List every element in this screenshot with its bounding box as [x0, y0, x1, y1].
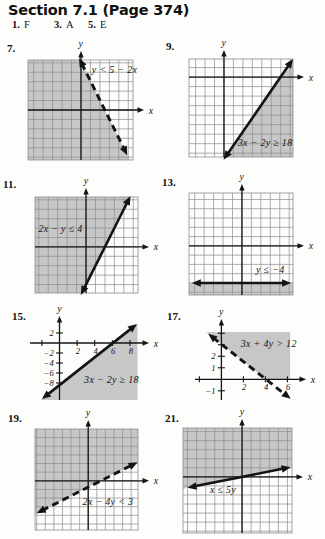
answer-number: 3.: [54, 19, 62, 30]
y-axis-label: y: [218, 306, 224, 317]
answer-key-page: Section 7.1 (Page 374) 1.F 3.A 5.E 7. xy…: [0, 0, 325, 539]
arrowhead: [239, 419, 244, 426]
tick-label: 6: [111, 346, 116, 356]
arrowhead: [143, 340, 150, 345]
inequality-label: y ≤ −4: [255, 264, 284, 275]
x-axis-label: x: [148, 105, 154, 116]
arrowhead: [78, 51, 83, 58]
problem-15-graph: xy24682−2−4−6−83x − 2y ≥ 18: [8, 296, 165, 407]
x-axis-label: x: [308, 240, 314, 251]
tick-label: 2: [211, 351, 216, 361]
tick-label: −4: [43, 358, 54, 368]
arrowhead: [221, 50, 226, 57]
tick-label: 4: [264, 382, 269, 392]
problem-7-figure: 7. xyy < 5 − 2x: [18, 40, 170, 166]
arrowhead: [239, 184, 244, 191]
y-axis-label: y: [239, 406, 245, 417]
inequality-label: x ≤ 5y: [209, 484, 236, 495]
tick-label: 2: [49, 328, 54, 338]
problem-19-graph: xy2x − 4y < 3: [18, 408, 170, 538]
x-axis-label: x: [307, 471, 313, 482]
arrowhead: [298, 243, 305, 248]
y-axis-label: y: [78, 38, 84, 49]
grid-lines: [189, 193, 293, 295]
y-axis-label: y: [85, 407, 91, 418]
shaded-region: [35, 197, 130, 293]
tick-label: 2: [76, 346, 81, 356]
tick-label: 1: [211, 363, 216, 373]
shaded-region: [183, 428, 292, 489]
arrowhead: [143, 244, 150, 249]
y-axis-label: y: [221, 37, 227, 48]
problem-17-graph: xy24612−13x + 4y > 12: [163, 296, 325, 407]
tick-label: −6: [43, 368, 54, 378]
answer-number: 5.: [88, 19, 96, 30]
arrowhead: [300, 377, 307, 382]
arrowhead: [298, 74, 305, 79]
answer-letter: F: [24, 19, 30, 30]
y-axis-label: y: [56, 303, 62, 314]
inequality-label: 3x − 2y ≥ 18: [83, 374, 139, 385]
problem-9-figure: 9. xy3x − 2y ≥ 18: [158, 36, 325, 162]
problem-21-graph: xyx ≤ 5y: [158, 408, 325, 539]
answer-letter: A: [66, 19, 74, 30]
problem-19-figure: 19. xy2x − 4y < 3: [18, 408, 170, 538]
problem-21-figure: 21. xyx ≤ 5y: [158, 408, 325, 539]
answer-item: 1.F: [12, 19, 30, 30]
problem-9-graph: xy3x − 2y ≥ 18: [158, 36, 325, 162]
tick-label: 6: [286, 382, 291, 392]
x-axis-label: x: [153, 338, 159, 349]
problem-13-graph: xyy ≤ −4: [158, 171, 325, 299]
arrowhead: [57, 316, 62, 323]
x-axis-label: x: [308, 72, 314, 83]
tick-label: 8: [129, 346, 134, 356]
problem-number: 11.: [3, 178, 16, 190]
arrowhead: [219, 319, 224, 326]
problem-13-figure: 13. xyy ≤ −4: [158, 171, 325, 299]
x-axis-label: x: [310, 374, 316, 385]
tick-label: −1: [205, 386, 216, 396]
problem-15-figure: 15. xy24682−2−4−6−83x − 2y ≥ 18: [8, 296, 165, 407]
arrowhead: [138, 107, 145, 112]
problem-17-figure: 17. xy24612−13x + 4y > 12: [163, 296, 325, 407]
tick-label: 2: [242, 382, 247, 392]
y-axis-label: y: [83, 175, 89, 186]
section-title: Section 7.1 (Page 374): [8, 2, 189, 18]
inequality-label: y < 5 − 2x: [91, 64, 138, 75]
inequality-label: 3x − 2y ≥ 18: [237, 137, 293, 148]
answer-row: 1.F 3.A 5.E: [12, 19, 212, 32]
inequality-label: 3x + 4y > 12: [240, 338, 297, 349]
arrowhead: [143, 478, 150, 483]
shaded-region: [189, 283, 293, 295]
answer-item: 5.E: [88, 19, 106, 30]
inequality-label: 2x − y ≤ 4: [38, 223, 82, 234]
problem-number: 7.: [7, 42, 15, 54]
arrowhead: [86, 420, 91, 427]
inequality-label: 2x − 4y < 3: [83, 496, 134, 507]
arrowhead: [83, 188, 88, 195]
axes: [189, 188, 300, 295]
tick-label: −2: [43, 348, 54, 358]
tick-label: −8: [43, 378, 54, 388]
problem-11-graph: xy2x − y ≤ 4: [18, 175, 170, 299]
y-axis-label: y: [239, 171, 245, 182]
problem-7-graph: xyy < 5 − 2x: [18, 40, 170, 166]
problem-11-figure: 11. xy2x − y ≤ 4: [18, 175, 170, 299]
answer-item: 3.A: [54, 19, 73, 30]
answer-letter: E: [100, 19, 106, 30]
arrowhead: [297, 474, 304, 479]
answer-number: 1.: [12, 19, 20, 30]
